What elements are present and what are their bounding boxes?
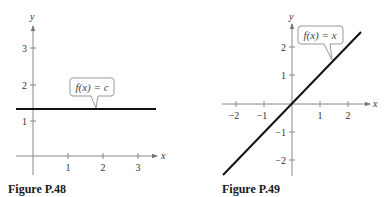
figure-p48-caption: Figure P.48	[8, 182, 66, 197]
x-tick-label: 2	[101, 162, 106, 173]
x-tick-label: 3	[136, 162, 141, 173]
x-axis-label: x	[160, 150, 166, 161]
y-tick-label: 3	[22, 43, 27, 54]
figures-canvas: x y 1 2 3 3 2 1 f(x) = c x y −2 −1	[0, 0, 390, 197]
figure-p49-caption: Figure P.49	[222, 182, 280, 197]
y-tick-label: −2	[275, 155, 286, 166]
function-label: f(x) = c	[75, 81, 108, 94]
x-tick-label: 1	[66, 162, 71, 173]
y-axis-label: y	[288, 11, 294, 22]
y-tick-label: 2	[22, 80, 27, 91]
y-tick-label: 1	[22, 116, 27, 127]
figure-p48: x y 1 2 3 3 2 1 f(x) = c	[16, 11, 166, 175]
figure-p49: x y −2 −1 1 2 2 1 −1 −2 f(x) = x	[222, 11, 378, 176]
y-tick-label: 2	[281, 42, 286, 53]
x-tick-label: 2	[346, 110, 351, 121]
y-tick-label: 1	[281, 70, 286, 81]
x-tick-label: −2	[229, 110, 240, 121]
x-axis-label: x	[372, 98, 378, 109]
x-tick-label: 1	[318, 110, 323, 121]
x-tick-label: −1	[257, 110, 268, 121]
y-tick-label: −1	[275, 127, 286, 138]
y-axis-label: y	[29, 11, 35, 22]
function-label: f(x) = x	[303, 29, 336, 42]
